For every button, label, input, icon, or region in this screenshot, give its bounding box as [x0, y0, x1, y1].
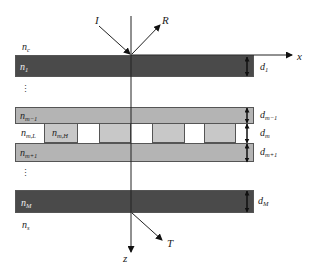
- reflected-label: R: [162, 15, 169, 26]
- ellipsis-upper: ⋮: [21, 88, 30, 91]
- thickness-d-m-minus-1-label: dm−1: [260, 110, 277, 120]
- grating-high-label: nm,H: [52, 128, 68, 138]
- reflected-beam-arrow: [132, 25, 160, 54]
- ellipsis-lower: ⋮: [21, 172, 30, 175]
- layer-n-m-minus-1-label: nm−1: [20, 111, 37, 121]
- thickness-d1-label: d1: [260, 62, 268, 72]
- thickness-d-m-label: dm: [260, 128, 270, 138]
- z-axis-label: z: [123, 253, 127, 264]
- layer-n-m-plus-1-label: nm+1: [20, 148, 37, 158]
- transmitted-beam-arrow: [132, 213, 162, 240]
- incident-label: I: [95, 15, 99, 26]
- incident-beam-arrow: [99, 26, 130, 54]
- thickness-d-M-label: dM: [258, 196, 268, 206]
- grating-low-label: nm,L: [21, 128, 36, 138]
- x-axis-label: x: [297, 51, 302, 62]
- substrate-index-label: ns: [22, 220, 30, 230]
- multilayer-diagram: I R T x z nc ns n1 nm−1 nm,L nm,H nm+1 n…: [0, 0, 314, 268]
- thickness-d-m-plus-1-label: dm+1: [260, 147, 277, 157]
- layer-n1-label: n1: [20, 62, 28, 72]
- transmitted-label: T: [167, 238, 173, 249]
- layer-n-M-label: nM: [21, 198, 31, 208]
- cover-index-label: nc: [22, 42, 30, 52]
